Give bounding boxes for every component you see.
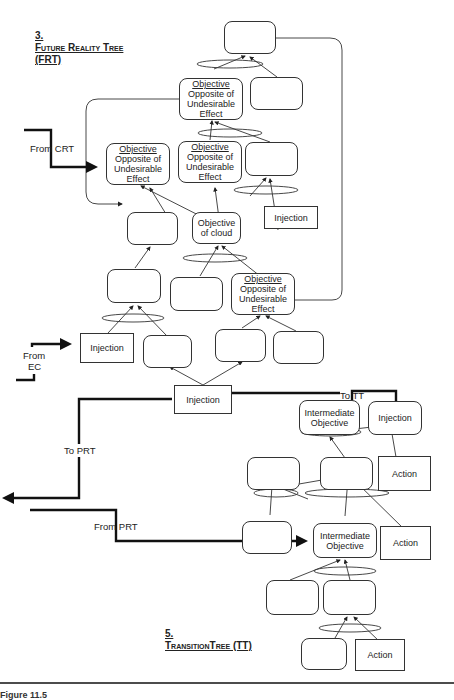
to-prt-label: To PRT: [64, 444, 96, 457]
tt-injection: Injection: [368, 401, 422, 435]
tt-node-low-a: [266, 580, 319, 615]
tt-heading: 5. TransitionTree (TT): [165, 628, 252, 652]
frt-injection-left: Injection: [80, 333, 134, 363]
tt-intermediate-objective-top: Intermediate Objective: [299, 400, 360, 435]
frt-heading-abbr: (FRT): [35, 54, 123, 66]
frt-node-left-lower: [107, 269, 161, 303]
figure-caption: Figure 11.5: [0, 690, 47, 700]
from-ec-bracket: [16, 374, 34, 380]
tt-action-mid: Action: [380, 526, 431, 560]
from-prt-label: From PRT: [94, 521, 138, 532]
from-ec-connector: [32, 344, 62, 347]
frt-node-bottom-b: [215, 329, 266, 362]
from-crt-label: From CRT: [30, 143, 74, 154]
frt-injection-right: Injection: [264, 206, 318, 229]
frt-node-top-right: [250, 77, 303, 110]
tt-node-left-low: [242, 521, 292, 554]
tt-action-bottom: Action: [355, 639, 405, 671]
frt-heading-title: Future Reality Tree: [35, 42, 123, 54]
tt-heading-number: 5.: [165, 628, 252, 640]
frt-heading-number: 3.: [35, 30, 123, 42]
frt-heading: 3. Future Reality Tree (FRT): [35, 30, 123, 66]
from-ec-label-1: From: [23, 350, 45, 361]
frt-node-bottom-a: [143, 335, 192, 368]
tt-node-left-box: [247, 457, 300, 490]
frt-node-top: [224, 21, 276, 54]
frt-node-mid-right: [245, 142, 298, 176]
frt-node-left-mid: [127, 212, 178, 245]
tt-heading-title: TransitionTree (TT): [165, 640, 252, 652]
frt-node-bottom-c: [273, 331, 324, 364]
frt-node-center-lower: [170, 277, 223, 311]
frt-node-objective-mid: Objective Opposite of Undesirable Effect: [178, 141, 242, 183]
from-ec-label-2: EC: [28, 361, 41, 372]
tt-node-low-b: [323, 580, 376, 615]
frt-node-objective-top: Objective Opposite of Undesirable Effect: [179, 78, 243, 120]
tt-intermediate-objective-mid: Intermediate Objective: [313, 523, 377, 558]
frt-node-objective-left: Objective Opposite of Undesirable Effect: [106, 143, 170, 185]
tt-node-center-box: [320, 457, 373, 490]
frt-injection-bottom: Injection: [174, 385, 232, 414]
frt-node-objective-of-cloud: Objective of cloud: [192, 212, 241, 244]
tt-node-bottom-a: [301, 638, 347, 670]
frt-node-objective-low: Objective Opposite of Undesirable Effect: [231, 273, 295, 315]
tt-action-top: Action: [378, 456, 431, 491]
